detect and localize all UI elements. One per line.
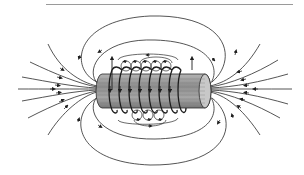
- solenoid-core: [96, 74, 211, 108]
- solenoid-field-diagram: [0, 0, 304, 175]
